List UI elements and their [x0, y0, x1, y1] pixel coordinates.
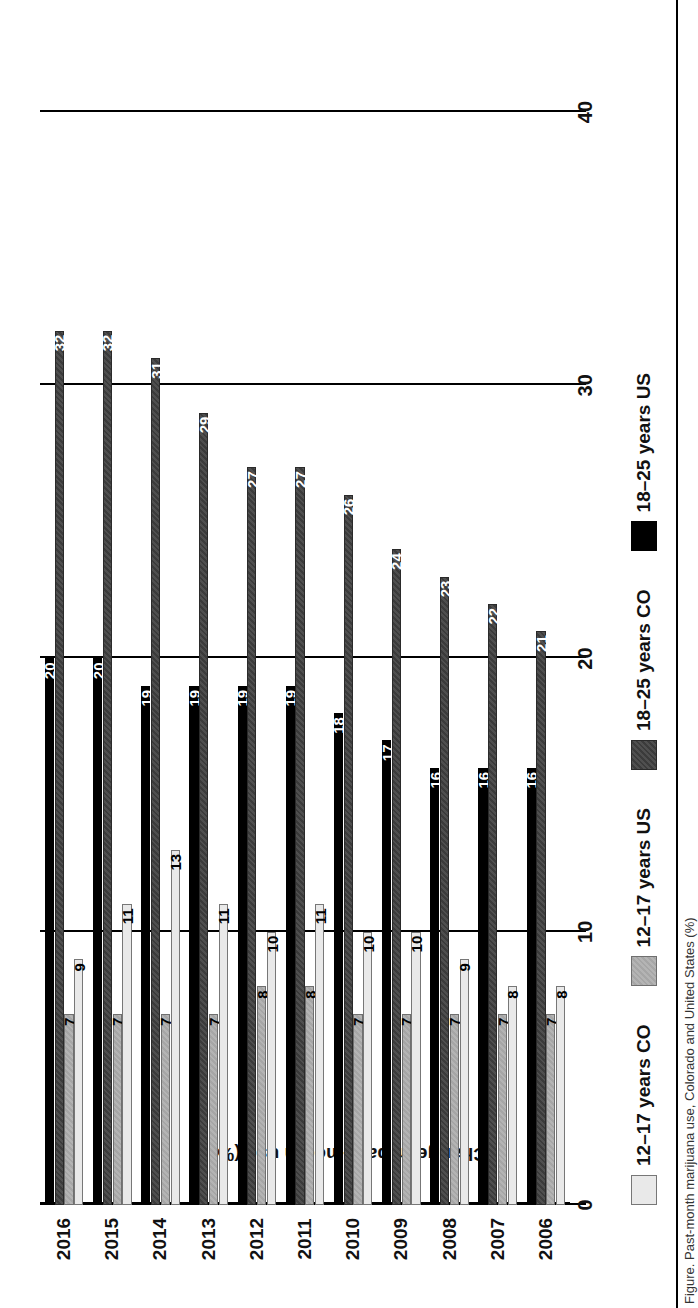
category-label-2011: 2011 — [294, 1218, 316, 1259]
bar-s1825co-2014: 31 — [151, 358, 160, 1205]
category-label-2015: 2015 — [101, 1218, 123, 1260]
bar-group: 1826710 — [329, 112, 377, 1205]
bar-value-label: 24 — [389, 553, 404, 570]
bar-value-label: 10 — [409, 936, 424, 953]
chart-legend: 12–17 years CO12–17 years US18–25 years … — [624, 30, 664, 1205]
axis-tick-label: 0 — [574, 1199, 597, 1210]
bar-s1217us-2010: 7 — [353, 1014, 362, 1205]
legend-item: 18–25 years CO — [631, 589, 657, 770]
category-label-2013: 2013 — [198, 1218, 220, 1260]
bar-s1825co-2010: 26 — [344, 495, 353, 1205]
bar-s1217co-2011: 11 — [315, 904, 324, 1205]
bar-value-label: 32 — [100, 335, 115, 352]
legend-swatch-icon — [631, 1175, 657, 1205]
bar-s1825us-2015: 20 — [93, 659, 102, 1206]
category-label-2010: 2010 — [342, 1218, 364, 1260]
category-label-2014: 2014 — [149, 1218, 171, 1260]
bar-value-label: 23 — [437, 581, 452, 598]
category-label-2016: 2016 — [53, 1218, 75, 1260]
caption-divider — [676, 0, 678, 1308]
legend-label: 18–25 years CO — [633, 589, 655, 731]
bar-group: 1724710 — [377, 112, 425, 1205]
category-label-2008: 2008 — [439, 1218, 461, 1260]
bar-value-label: 13 — [168, 854, 183, 871]
figure-page: Change in past-month use (%) 01020304016… — [0, 0, 698, 1308]
bar-s1825co-2008: 23 — [440, 577, 449, 1205]
category-label-2012: 2012 — [246, 1218, 268, 1260]
bar-s1217us-2008: 7 — [450, 1014, 459, 1205]
legend-item: 12–17 years US — [631, 808, 657, 986]
bar-group: 2032711 — [88, 112, 136, 1205]
bar-s1825us-2014: 19 — [141, 686, 150, 1205]
legend-swatch-icon — [631, 956, 657, 986]
bar-s1217co-2008: 9 — [460, 959, 469, 1205]
bar-s1217co-2007: 8 — [508, 986, 517, 1205]
bar-s1217co-2012: 10 — [267, 932, 276, 1205]
bar-s1825co-2013: 29 — [199, 413, 208, 1205]
legend-label: 18–25 years US — [633, 373, 655, 512]
bar-s1217co-2006: 8 — [556, 986, 565, 1205]
bar-s1217us-2009: 7 — [402, 1014, 411, 1205]
bar-s1217us-2016: 7 — [64, 1014, 73, 1205]
bar-value-label: 9 — [457, 963, 472, 971]
legend-swatch-icon — [631, 521, 657, 551]
bar-group: 162278 — [474, 112, 522, 1205]
bar-s1825us-2007: 16 — [478, 768, 487, 1205]
bar-s1825co-2006: 21 — [536, 631, 545, 1205]
bar-s1825co-2007: 22 — [488, 604, 497, 1205]
bar-group: 1931713 — [136, 112, 184, 1205]
legend-label: 12–17 years US — [633, 808, 655, 947]
legend-item: 18–25 years US — [631, 373, 657, 551]
bar-value-label: 11 — [312, 908, 327, 924]
plot-area: 0102030401621782006162278200716237920081… — [40, 112, 570, 1205]
bar-s1825co-2015: 32 — [103, 331, 112, 1205]
bar-group: 162178 — [522, 112, 570, 1205]
bar-value-label: 27 — [244, 471, 259, 488]
bar-value-label: 26 — [341, 499, 356, 516]
bar-group: 1927811 — [281, 112, 329, 1205]
axis-tick-label: 10 — [574, 921, 597, 943]
category-label-2007: 2007 — [487, 1218, 509, 1260]
bar-s1217us-2013: 7 — [209, 1014, 218, 1205]
bar-value-label: 8 — [505, 990, 520, 998]
axis-tick-label: 30 — [574, 374, 597, 396]
bar-value-label: 31 — [148, 362, 163, 379]
bar-value-label: 11 — [119, 908, 134, 924]
bar-s1825co-2009: 24 — [392, 549, 401, 1205]
bar-s1825us-2013: 19 — [189, 686, 198, 1205]
bar-s1217co-2015: 11 — [122, 904, 131, 1205]
bar-s1217us-2014: 7 — [161, 1014, 170, 1205]
bar-value-label: 8 — [553, 990, 568, 998]
bar-value-label: 32 — [52, 335, 67, 352]
figure-caption: Figure. Past-month marijuana use, Colora… — [682, 917, 698, 1304]
bar-s1217us-2015: 7 — [113, 1014, 122, 1205]
bar-value-label: 29 — [196, 417, 211, 434]
bar-value-label: 10 — [360, 936, 375, 953]
bar-s1825co-2012: 27 — [247, 467, 256, 1205]
axis-tick-label: 20 — [574, 647, 597, 669]
legend-item: 12–17 years CO — [631, 1024, 657, 1205]
bar-s1217us-2012: 8 — [257, 986, 266, 1205]
bar-group: 1927810 — [233, 112, 281, 1205]
bar-value-label: 21 — [533, 635, 548, 652]
rotated-figure-wrapper: Change in past-month use (%) 01020304016… — [0, 0, 698, 1308]
bar-s1825us-2008: 16 — [430, 768, 439, 1205]
axis-tick-label: 40 — [574, 101, 597, 123]
bar-s1217us-2011: 8 — [305, 986, 314, 1205]
bar-s1825us-2016: 20 — [45, 659, 54, 1206]
bar-s1825co-2016: 32 — [55, 331, 64, 1205]
bar-s1825us-2010: 18 — [334, 713, 343, 1205]
bar-s1825co-2011: 27 — [295, 467, 304, 1205]
bar-s1217co-2010: 10 — [363, 932, 372, 1205]
chart-figure: Change in past-month use (%) 01020304016… — [0, 0, 698, 1308]
bar-s1825us-2011: 19 — [286, 686, 295, 1205]
bar-value-label: 10 — [264, 936, 279, 953]
bar-value-label: 22 — [485, 608, 500, 625]
bar-s1825us-2012: 19 — [238, 686, 247, 1205]
legend-label: 12–17 years CO — [633, 1024, 655, 1166]
category-label-2006: 2006 — [535, 1218, 557, 1260]
bar-s1217co-2016: 9 — [74, 959, 83, 1205]
bar-value-label: 11 — [216, 908, 231, 924]
bar-s1217co-2014: 13 — [171, 850, 180, 1205]
bar-value-label: 9 — [71, 963, 86, 971]
